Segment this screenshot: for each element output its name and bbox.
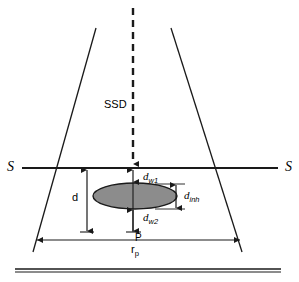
dinh-subscript: inh [190, 195, 200, 204]
radius-subscript: p [135, 249, 139, 258]
dw2-subscript: w2 [149, 217, 159, 226]
surface-label-right: S [285, 160, 292, 174]
surface-label-left: S [7, 160, 14, 174]
figure-canvas: SSD S S d dw1 dinh dw2 P rp [0, 0, 299, 282]
dinh-label: dinh [184, 190, 199, 204]
dw1-subscript: w1 [149, 176, 159, 185]
dw2-label: dw2 [143, 212, 158, 226]
dw1-label: dw1 [143, 171, 158, 185]
diagram-svg [0, 0, 299, 282]
inhomogeneity-ellipse [93, 183, 177, 209]
beam-edge-right-line [171, 28, 242, 252]
radius-label: rp [131, 244, 139, 258]
point-p-label: P [135, 233, 142, 243]
depth-label: d [72, 192, 78, 203]
ssd-label: SSD [104, 99, 127, 110]
